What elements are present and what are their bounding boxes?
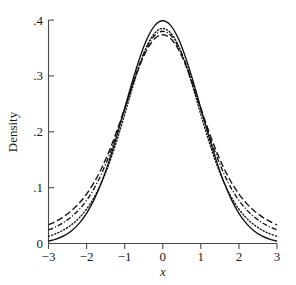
x-tick-label: −1 [118,249,132,264]
y-axis-tick-labels: 0 .1 .2 .3 .4 [33,13,43,251]
chart-canvas: 0 .1 .2 .3 .4 −3 −2 −1 0 1 2 3 x Density [0,0,296,285]
x-tick-label: −2 [80,249,94,264]
y-tick-label: .1 [33,180,43,195]
x-tick-label: 2 [236,249,243,264]
x-tick-label: 0 [160,249,167,264]
density-curve-dash-dot [49,31,278,230]
axes [49,20,278,244]
x-axis-title: x [159,264,166,279]
y-axis-title: Density [5,111,20,152]
density-plot-figure: 0 .1 .2 .3 .4 −3 −2 −1 0 1 2 3 x Density [0,0,296,285]
x-tick-label: 1 [198,249,205,264]
y-axis-ticks [49,20,55,243]
density-curves [49,21,278,241]
x-tick-label: −3 [42,249,56,264]
density-curve-dashed [49,35,278,225]
y-tick-label: .2 [33,124,43,139]
x-axis-tick-labels: −3 −2 −1 0 1 2 3 [42,249,281,264]
x-tick-label: 3 [274,249,281,264]
density-curve-solid [49,21,278,241]
y-tick-label: .4 [33,13,43,28]
y-tick-label: .3 [33,68,43,83]
